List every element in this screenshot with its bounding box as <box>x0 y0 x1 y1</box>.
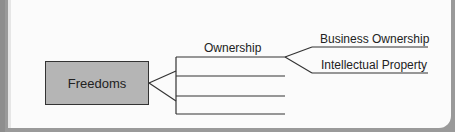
leaf-label-intellectual-property: Intellectual Property <box>321 58 427 72</box>
branch-label-ownership: Ownership <box>204 41 261 55</box>
root-node-label: Freedoms <box>68 76 127 91</box>
root-node-freedoms: Freedoms <box>45 61 149 105</box>
leaf-label-business-ownership: Business Ownership <box>320 32 429 46</box>
